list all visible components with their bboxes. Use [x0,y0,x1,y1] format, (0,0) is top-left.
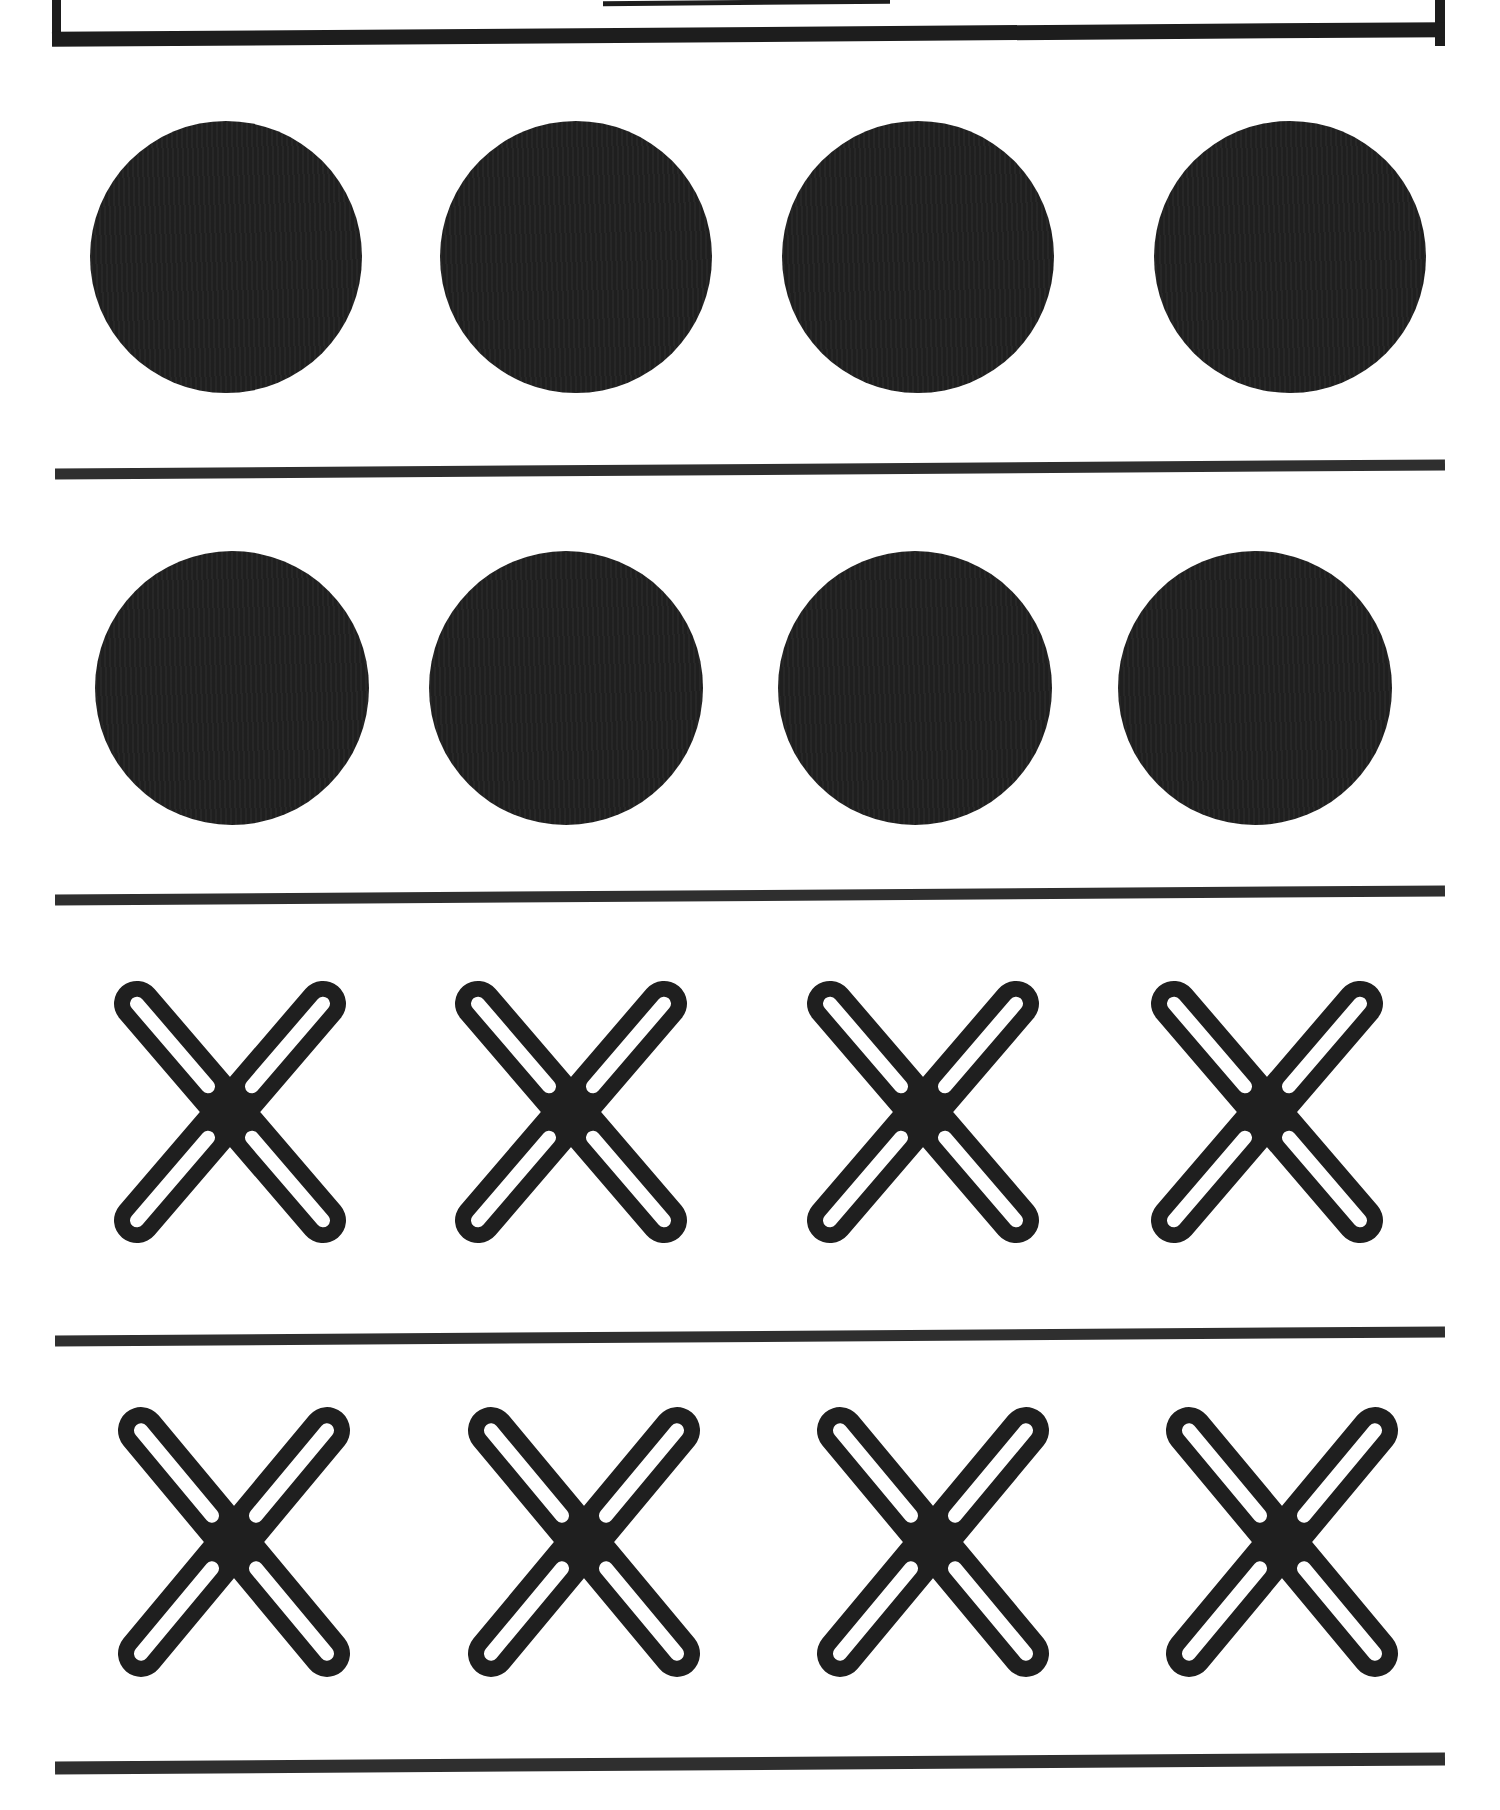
row-divider [55,1752,1445,1774]
filled-circle [429,551,703,825]
outline-x-shape [114,1404,354,1680]
row-divider [55,459,1445,479]
filled-circle [440,121,712,393]
outline-x-shape [464,1404,704,1680]
title-box [0,0,1500,60]
outline-x-shape [451,978,691,1246]
filled-circle [778,551,1052,825]
outline-x-shape [1147,978,1387,1246]
row-divider [55,1326,1445,1346]
outline-x-shape [813,1404,1053,1680]
filled-circle [1118,551,1392,825]
outline-x-shape [803,978,1043,1246]
outline-x-shape [1162,1404,1402,1680]
outline-x-shape [110,978,350,1246]
row-divider [55,885,1445,905]
title-box-bottom-border [52,22,1445,47]
worksheet-page [0,0,1500,1810]
filled-circle [1154,121,1426,393]
filled-circle [90,121,362,393]
filled-circle [95,551,369,825]
title-underline-blank [603,0,890,6]
filled-circle [782,121,1054,393]
